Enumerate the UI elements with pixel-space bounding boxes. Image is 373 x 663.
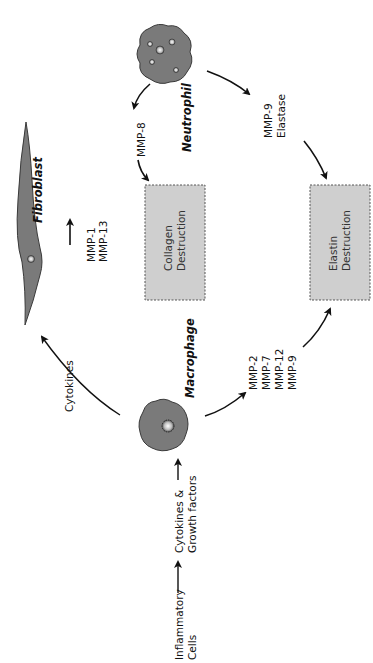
neutrophil-elastase-arrow-1	[207, 71, 249, 94]
mmp-diagram: Neutrophil Fibroblast MMP-1 MMP-13 Colla…	[0, 0, 373, 663]
macrophage-label: Macrophage	[183, 318, 197, 398]
macrophage-mmp-9: MMP-9	[286, 355, 298, 390]
macrophage-mmp-12: MMP-12	[273, 349, 285, 390]
cytokines-arrow	[42, 337, 120, 415]
neutrophil-elastase: Elastase	[275, 94, 287, 138]
inflammatory-cells-line1: Inflammatory	[173, 589, 185, 660]
cytokines-growth-line1: Cytokines &	[173, 490, 185, 553]
neutrophil-mmp8-arrow-1	[134, 84, 150, 108]
macrophage-mmp-arrow-1	[205, 393, 245, 416]
fibroblast-label: Fibroblast	[31, 157, 45, 223]
neutrophil-mmp8-arrow-2	[138, 160, 148, 180]
neutrophil-label: Neutrophil	[180, 82, 194, 152]
collagen-label-line1: Collagen	[162, 225, 174, 271]
macrophage-cell-icon	[139, 399, 188, 451]
elastin-label-line1: Elastin	[327, 236, 339, 271]
macrophage-mmp-7: MMP-7	[260, 355, 272, 390]
fibroblast-mmp-1: MMP-1	[85, 227, 97, 262]
cytokines-label: Cytokines	[63, 360, 75, 412]
macrophage-mmp-2: MMP-2	[247, 355, 259, 390]
neutrophil-mmp-9: MMP-9	[262, 103, 274, 138]
neutrophil-elastase-arrow-2	[304, 141, 326, 178]
neutrophil-mmp-8: MMP-8	[135, 122, 147, 157]
elastin-label-line2: Destruction	[340, 210, 352, 271]
fibroblast-mmp-13: MMP-13	[97, 221, 109, 262]
inflammatory-cells-line2: Cells	[186, 635, 198, 660]
cytokines-growth-line2: Growth factors	[186, 475, 198, 553]
collagen-label-line2: Destruction	[175, 210, 187, 271]
neutrophil-cell-icon	[137, 24, 192, 83]
macrophage-mmp-arrow-2	[303, 309, 330, 347]
